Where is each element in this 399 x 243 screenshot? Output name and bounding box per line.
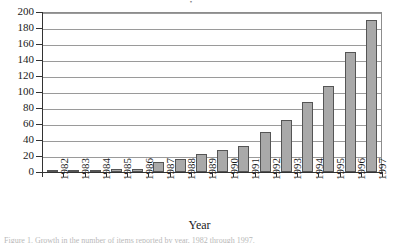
bar [90, 170, 101, 172]
y-axis-tick-label: 180 [0, 22, 34, 33]
x-axis-tick [106, 172, 107, 177]
bar [238, 146, 249, 172]
x-axis-tick [276, 172, 277, 177]
title-remnant: • [186, 0, 196, 5]
x-axis-tick [63, 172, 64, 177]
x-axis-tick [191, 172, 192, 177]
y-axis-tick [36, 108, 42, 109]
bar [153, 162, 164, 172]
bar [68, 170, 79, 172]
y-axis-tick-label: 200 [0, 6, 34, 17]
y-axis-tick [36, 140, 42, 141]
y-axis-tick-label: 100 [0, 86, 34, 97]
y-axis-tick [36, 156, 42, 157]
x-axis-tick [318, 172, 319, 177]
bar [345, 52, 356, 172]
y-axis-tick-label: 120 [0, 70, 34, 81]
x-axis-tick [297, 172, 298, 177]
bar [175, 159, 186, 172]
bar [47, 170, 58, 172]
x-axis-tick [127, 172, 128, 177]
y-axis-tick [36, 12, 42, 13]
y-axis-tick [36, 60, 42, 61]
y-axis-tick [36, 124, 42, 125]
bar [132, 169, 143, 172]
x-axis-tick [382, 172, 383, 177]
y-axis-tick-label: 0 [0, 166, 34, 177]
y-axis-tick-label: 80 [0, 102, 34, 113]
bar [217, 150, 228, 172]
x-axis-tick [255, 172, 256, 177]
x-axis-tick [85, 172, 86, 177]
y-axis-labels: 200180160140120100806040200 [0, 0, 34, 243]
y-axis-tick-label: 160 [0, 38, 34, 49]
chart-figure: • 200180160140120100806040200 1982198319… [0, 0, 399, 243]
y-axis-tick-label: 140 [0, 54, 34, 65]
y-axis-tick-label: 20 [0, 150, 34, 161]
bar [302, 102, 313, 172]
y-axis-tick-label: 60 [0, 118, 34, 129]
y-axis-tick-label: 40 [0, 134, 34, 145]
y-axis-tick [36, 92, 42, 93]
y-axis-tick [36, 44, 42, 45]
bar [323, 86, 334, 172]
y-axis-tick [36, 28, 42, 29]
figure-caption: Figure 1. Growth in the number of items … [4, 236, 395, 243]
x-axis-tick [361, 172, 362, 177]
x-axis-tick [233, 172, 234, 177]
x-axis-tick [340, 172, 341, 177]
x-axis-tick [170, 172, 171, 177]
x-axis-tick [42, 172, 43, 177]
bar [260, 132, 271, 172]
x-axis-title: Year [0, 218, 399, 232]
y-axis-tick [36, 76, 42, 77]
x-axis-tick [148, 172, 149, 177]
x-axis-tick [212, 172, 213, 177]
